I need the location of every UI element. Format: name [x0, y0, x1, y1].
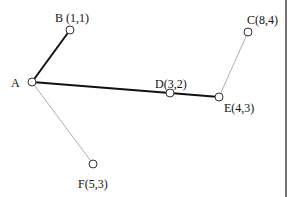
node-a-label: A	[11, 76, 20, 90]
node-c-circle-icon	[244, 28, 252, 36]
node-b-label: B (1,1)	[55, 11, 89, 25]
node-d-label: D(3,2)	[155, 77, 187, 91]
nodes-group	[28, 26, 252, 168]
edge-a-f	[32, 82, 93, 164]
node-b-circle-icon	[66, 26, 74, 34]
node-a-circle-icon	[28, 78, 36, 86]
edge-a-d	[32, 82, 170, 93]
graph-diagram: AB (1,1)C(8,4)D(3,2)E(4,3)F(5,3)	[0, 0, 288, 197]
node-f-circle-icon	[89, 160, 97, 168]
edge-a-b	[32, 30, 70, 82]
node-f-label: F(5,3)	[78, 177, 108, 191]
node-c-label: C(8,4)	[247, 13, 278, 27]
edge-e-c	[219, 32, 248, 97]
edge-d-e	[170, 93, 219, 97]
node-e-label: E(4,3)	[224, 101, 254, 115]
node-e-circle-icon	[215, 93, 223, 101]
labels-group: AB (1,1)C(8,4)D(3,2)E(4,3)F(5,3)	[11, 11, 278, 191]
